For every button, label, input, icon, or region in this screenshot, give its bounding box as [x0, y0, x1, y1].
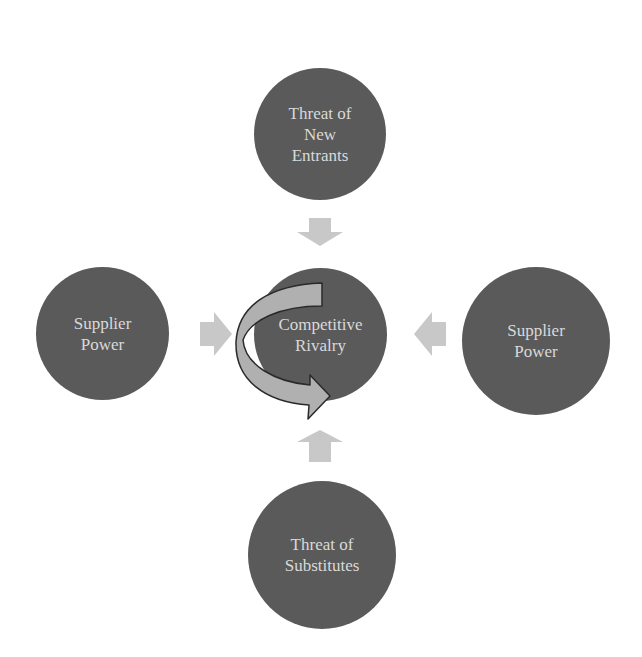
curved-arrow-icon [236, 283, 330, 419]
curved-arrow-layer [0, 0, 642, 657]
